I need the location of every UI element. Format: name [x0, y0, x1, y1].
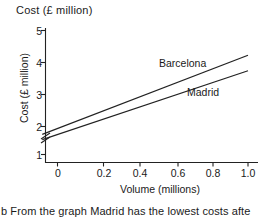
- series-label-madrid: Madrid: [187, 86, 219, 98]
- figure-caption: b From the graph Madrid has the lowest c…: [1, 205, 250, 217]
- axis-lines: [46, 28, 259, 163]
- plot-area: [0, 0, 267, 220]
- x-axis-tick-marks: [58, 163, 249, 167]
- chart-figure: Cost (£ million) Cost (£ million) Volume…: [0, 0, 267, 220]
- series-label-barcelona: Barcelona: [159, 57, 206, 69]
- line-series-madrid: [42, 71, 248, 140]
